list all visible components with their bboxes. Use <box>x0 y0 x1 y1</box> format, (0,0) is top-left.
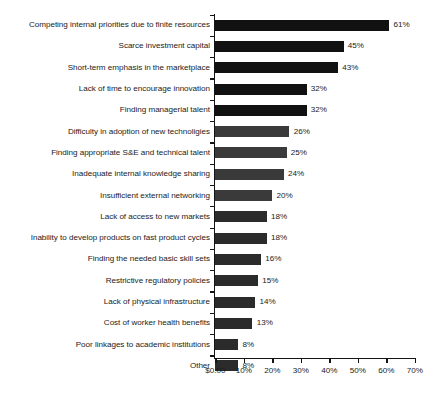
y-axis-tick <box>210 57 215 58</box>
category-label: Scarce investment capital <box>119 41 210 51</box>
category-label: Inability to develop products on fast pr… <box>31 233 210 243</box>
bar-value-label: 32% <box>311 105 327 115</box>
bar-row: Cost of worker health benefits13% <box>0 313 435 334</box>
y-axis-tick <box>210 100 215 101</box>
bar <box>215 211 266 222</box>
y-axis-tick <box>210 142 215 143</box>
bar-row: Finding managerial talent32% <box>0 100 435 121</box>
y-axis-tick <box>210 355 215 356</box>
y-axis-tick <box>210 313 215 314</box>
y-axis-tick <box>210 164 215 165</box>
category-label: Insufficient external networking <box>100 191 210 201</box>
bar <box>215 297 255 308</box>
bar-value-label: 16% <box>265 254 281 264</box>
category-label: Short-term emphasis in the marketplace <box>68 63 210 73</box>
x-axis-tick <box>358 358 359 363</box>
category-label: Lack of physical infrastructure <box>104 297 210 307</box>
y-axis-tick <box>210 206 215 207</box>
y-axis-tick <box>210 78 215 79</box>
bar <box>215 233 266 244</box>
plot-area: Competing internal priorities due to fin… <box>0 0 435 394</box>
bar-value-label: 20% <box>277 191 293 201</box>
bar-row: Lack of access to new markets18% <box>0 206 435 227</box>
bar-row: Finding the needed basic skill sets16% <box>0 249 435 270</box>
bar-value-label: 13% <box>257 318 273 328</box>
bar-value-label: 43% <box>342 63 358 73</box>
x-axis-tick <box>301 358 302 363</box>
category-label: Inadequate internal knowledge sharing <box>72 169 210 179</box>
y-axis-tick <box>210 228 215 229</box>
bar <box>215 105 306 116</box>
bar-value-label: 61% <box>393 20 409 30</box>
category-label: Finding managerial talent <box>120 105 210 115</box>
category-label: Restrictive regulatory policies <box>106 276 210 286</box>
y-axis-tick <box>210 291 215 292</box>
bar-row: Inadequate internal knowledge sharing24% <box>0 164 435 185</box>
bar <box>215 62 338 73</box>
bar <box>215 190 272 201</box>
bar-value-label: 14% <box>260 297 276 307</box>
bar <box>215 20 389 31</box>
bar <box>215 147 286 158</box>
x-axis-tick-label: $0.00 <box>205 365 225 376</box>
bar <box>215 169 283 180</box>
x-axis-tick <box>415 358 416 363</box>
x-axis-tick-label: 20% <box>264 365 280 376</box>
y-axis-tick <box>210 334 215 335</box>
x-axis-tick-label: 50% <box>350 365 366 376</box>
y-axis-tick <box>210 185 215 186</box>
bar-row: Lack of time to encourage innovation32% <box>0 78 435 99</box>
bar-row: Difficulty in adoption of new technoligi… <box>0 121 435 142</box>
bar-row: Inability to develop products on fast pr… <box>0 228 435 249</box>
bar-chart: Competing internal priorities due to fin… <box>0 0 435 394</box>
y-axis-tick <box>210 36 215 37</box>
y-axis-tick <box>210 121 215 122</box>
bar-value-label: 45% <box>348 41 364 51</box>
x-axis-tick-label: 10% <box>236 365 252 376</box>
bar-row: Finding appropriate S&E and technical ta… <box>0 142 435 163</box>
bar <box>215 339 238 350</box>
x-axis-tick <box>386 358 387 363</box>
bar-row: Lack of physical infrastructure14% <box>0 291 435 312</box>
bar-row: Competing internal priorities due to fin… <box>0 15 435 36</box>
x-axis-tick-label: 30% <box>293 365 309 376</box>
bar-value-label: 24% <box>288 169 304 179</box>
bar-row: Restrictive regulatory policies15% <box>0 270 435 291</box>
bar-row: Scarce investment capital45% <box>0 36 435 57</box>
bar-value-label: 18% <box>271 212 287 222</box>
bar <box>215 126 289 137</box>
category-label: Finding the needed basic skill sets <box>88 254 210 264</box>
bar <box>215 318 252 329</box>
bar <box>215 41 343 52</box>
y-axis-tick <box>210 270 215 271</box>
category-label: Difficulty in adoption of new technoligi… <box>68 127 210 137</box>
category-label: Competing internal priorities due to fin… <box>29 20 210 30</box>
category-label: Lack of access to new markets <box>100 212 210 222</box>
category-label: Cost of worker health benefits <box>104 318 210 328</box>
bar-row: Short-term emphasis in the marketplace43… <box>0 57 435 78</box>
bar <box>215 275 258 286</box>
x-axis-tick <box>329 358 330 363</box>
bar <box>215 254 261 265</box>
bar-value-label: 25% <box>291 148 307 158</box>
bar-value-label: 26% <box>294 127 310 137</box>
bar <box>215 84 306 95</box>
bar-value-label: 18% <box>271 233 287 243</box>
category-label: Finding appropriate S&E and technical ta… <box>51 148 210 158</box>
bar-value-label: 32% <box>311 84 327 94</box>
category-label: Poor linkages to academic institutions <box>76 340 210 350</box>
bar-value-label: 8% <box>242 340 254 350</box>
bar-row: Poor linkages to academic institutions8% <box>0 334 435 355</box>
x-axis-tick <box>272 358 273 363</box>
x-axis-tick <box>244 358 245 363</box>
bar-value-label: 15% <box>262 276 278 286</box>
y-axis-tick <box>210 249 215 250</box>
x-axis-tick-label: 60% <box>378 365 394 376</box>
x-axis-tick-label: 70% <box>407 365 423 376</box>
category-label: Lack of time to encourage innovation <box>79 84 210 94</box>
x-axis-tick <box>215 358 216 363</box>
bar-row: Insufficient external networking20% <box>0 185 435 206</box>
y-axis-tick <box>210 15 215 16</box>
x-axis-tick-label: 40% <box>321 365 337 376</box>
